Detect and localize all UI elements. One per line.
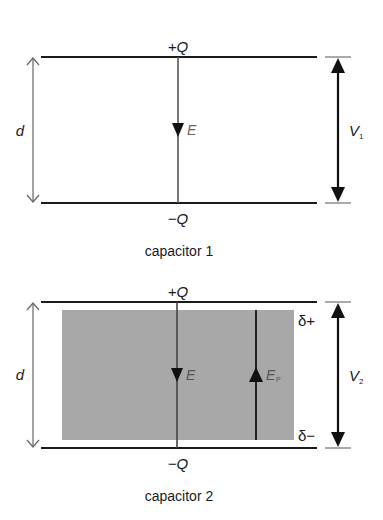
voltage-arrow-up-icon bbox=[331, 303, 345, 318]
capacitor-2: +Q −Q E E P δ+ δ− d V 2 capacitor 2 bbox=[16, 283, 364, 504]
capacitor-1: +Q −Q E d V 1 capacitor 1 bbox=[16, 38, 364, 259]
caption: capacitor 1 bbox=[145, 243, 214, 259]
field-label: E bbox=[187, 122, 197, 138]
bottom-charge-label: −Q bbox=[168, 210, 189, 227]
caption: capacitor 2 bbox=[145, 488, 214, 504]
voltage-subscript: 1 bbox=[359, 132, 364, 141]
voltage-arrow-down-icon bbox=[331, 432, 345, 447]
induced-bottom-charge: δ− bbox=[298, 427, 315, 444]
polarization-field-subscript: P bbox=[276, 376, 281, 383]
voltage-arrow-up-icon bbox=[331, 58, 345, 73]
top-charge-label: +Q bbox=[168, 283, 189, 300]
bottom-charge-label: −Q bbox=[168, 455, 189, 472]
polarization-field-label: E bbox=[266, 367, 276, 383]
separation-label: d bbox=[16, 366, 25, 383]
voltage-arrow-down-icon bbox=[331, 187, 345, 202]
voltage-subscript: 2 bbox=[359, 377, 364, 386]
separation-label: d bbox=[16, 122, 25, 139]
capacitor-diagram: +Q −Q E d V 1 capacitor 1 +Q −Q bbox=[0, 0, 383, 520]
induced-top-charge: δ+ bbox=[298, 312, 315, 329]
field-arrow-down-icon bbox=[172, 123, 184, 137]
field-label: E bbox=[186, 367, 196, 383]
top-charge-label: +Q bbox=[168, 38, 189, 55]
